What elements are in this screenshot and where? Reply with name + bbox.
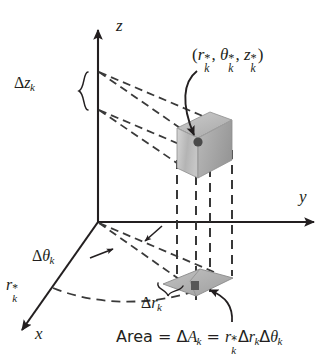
delta-theta-delta: Δ	[32, 247, 42, 264]
figure-canvas: z y x Δzk (r*k, θ*k, z*k) Δθk r*k Δrk Ar…	[0, 0, 335, 361]
axis-label-x: x	[35, 325, 43, 342]
theta-arrow-inner	[90, 249, 113, 258]
point-comma2: ,	[235, 45, 239, 64]
caption-eq2: =	[206, 327, 219, 346]
delta-theta-sub: k	[50, 254, 55, 266]
delta-r-sub: k	[157, 301, 162, 313]
axis-x-line	[22, 222, 98, 330]
diagram-svg	[0, 0, 335, 361]
caption-eq1: =	[158, 327, 171, 346]
delta-z-brace	[79, 72, 88, 110]
caption-r-sub: k	[231, 345, 236, 356]
ray-top-outer	[99, 72, 212, 120]
caption-delta-A: Δ	[176, 327, 187, 346]
point-theta: θ	[220, 45, 228, 64]
point-close: )	[258, 45, 264, 64]
caption-area-word: Area	[116, 327, 153, 346]
caption-delta-r: Δ	[238, 327, 249, 346]
point-r-sub: k	[204, 63, 209, 75]
point-z-sub: k	[251, 63, 256, 75]
label-r-star: r*k	[6, 277, 19, 293]
base-patch-center-mark	[191, 281, 199, 290]
label-sample-point: (r*k, θ*k, z*k)	[192, 46, 263, 63]
caption-theta-sub: k	[277, 335, 282, 347]
axis-label-z: z	[116, 17, 123, 34]
label-delta-z: Δzk	[14, 75, 35, 93]
delta-r-delta: Δ	[141, 294, 151, 311]
caption-A: A	[187, 328, 197, 345]
point-theta-sub: k	[228, 63, 233, 75]
theta-arrow-outer	[145, 226, 162, 241]
label-delta-r: Δrk	[141, 295, 162, 313]
label-area-caption: Area = ΔAk = r*kΔrkΔθk	[116, 329, 282, 347]
delta-theta-var: θ	[42, 247, 50, 264]
delta-z-sub: k	[30, 81, 35, 93]
sample-point-dot	[193, 137, 202, 146]
axis-label-y: y	[299, 188, 307, 205]
point-z: z	[244, 45, 251, 64]
caption-delta-theta: Δ	[259, 327, 270, 346]
point-comma1: ,	[211, 45, 215, 64]
point-r: r	[198, 45, 205, 64]
cylindrical-wedge-solid	[177, 112, 232, 178]
r-star-sub: k	[12, 293, 17, 304]
delta-z-delta: Δ	[14, 74, 24, 91]
area-caption-leader	[210, 290, 232, 322]
caption-A-sub: k	[197, 335, 202, 347]
label-delta-theta: Δθk	[32, 248, 54, 266]
